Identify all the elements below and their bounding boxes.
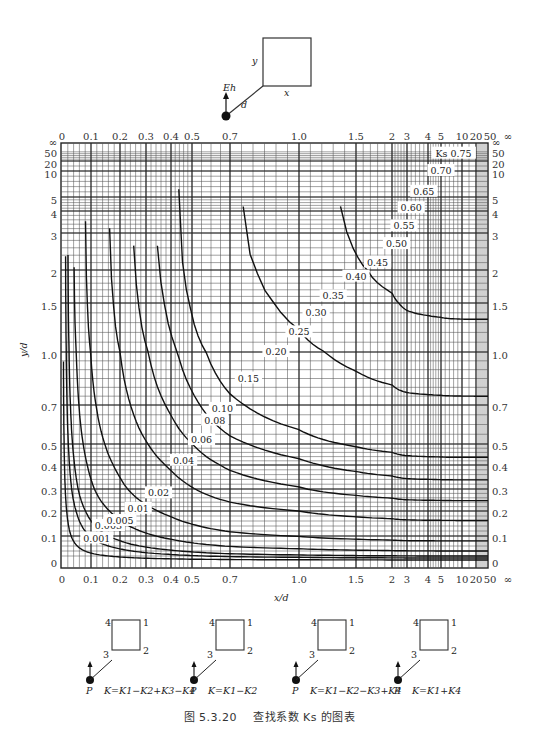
svg-text:K=K1−K2+K3−K4: K=K1−K2+K3−K4 [103,685,196,696]
svg-text:P: P [291,685,299,696]
contour-label: 0.04 [173,455,194,466]
x-tick-bottom: 0.5 [184,574,200,585]
y-tick-right: ∞ [492,137,500,148]
x-tick-bottom: 1.0 [291,574,307,585]
x-tick-bottom: 0 [59,574,65,585]
contour-label: 0.20 [265,346,286,357]
y-tick-right: 0.3 [492,486,508,497]
y-tick-left: 3 [51,231,57,242]
x-tick-bottom: 1.5 [348,574,364,585]
x-tick-top: 0.3 [138,131,154,142]
figure-number: 图 5.3.20 [184,711,237,724]
svg-text:4: 4 [209,617,215,628]
contour-label: 0.35 [323,290,344,301]
x-tick-bottom: 0.4 [163,574,179,585]
x-tick-top: 0.5 [184,131,200,142]
y-tick-right: 1.0 [492,350,508,361]
svg-text:1: 1 [451,617,457,628]
y-tick-right: 5 [492,195,498,206]
svg-text:2: 2 [143,645,149,656]
contour-label: 0.10 [212,403,233,414]
contour-label: 0.25 [288,326,309,337]
x-tick-top: 4 [425,131,431,142]
y-tick-right: 10 [492,169,505,180]
y-tick-left: 2 [51,268,57,279]
svg-text:P: P [85,685,93,696]
x-tick-top: 20 [470,131,483,142]
x-tick-top: 1.0 [291,131,307,142]
y-tick-right: 4 [492,209,498,220]
x-tick-top: 0.2 [112,131,128,142]
contour-label: 0.30 [306,307,327,318]
y-tick-left: 0.3 [41,486,57,497]
x-tick-top: 2 [389,131,395,142]
svg-text:4: 4 [105,617,111,628]
x-tick-bottom: 5 [438,574,444,585]
y-tick-left: 0.1 [41,533,57,544]
x-tick-bottom: 50 [484,574,497,585]
x-tick-top: 0.1 [83,131,99,142]
y-tick-left: 0.2 [41,508,57,519]
svg-text:1: 1 [349,617,355,628]
svg-text:3: 3 [103,649,109,660]
x-tick-bottom: 0.1 [83,574,99,585]
contour-label: 0.08 [204,415,225,426]
y-axis-label: y/d [18,342,29,358]
contour-label: 0.55 [393,220,414,231]
svg-text:K=K1−K2−K3+K4: K=K1−K2−K3+K4 [309,685,402,696]
legend-case: 4123PK=K1+K4 [393,617,461,696]
x-tick-top: 5 [438,131,444,142]
x-tick-top: 0 [59,131,65,142]
x-tick-bottom: 10 [456,574,469,585]
x-tick-bottom: 0.3 [138,574,154,585]
svg-text:P: P [189,685,197,696]
contour-label: 0.65 [413,186,434,197]
y-tick-right: 50 [492,148,505,159]
svg-text:2: 2 [451,645,457,656]
svg-text:P: P [393,685,401,696]
y-tick-right: 0.7 [492,402,508,413]
svg-text:K=K1−K2: K=K1−K2 [207,685,257,696]
y-tick-left: 0.7 [41,402,57,413]
svg-text:1: 1 [143,617,149,628]
contour-label: 0.40 [345,271,366,282]
width-label: x [284,87,290,98]
svg-text:4: 4 [311,617,317,628]
x-tick-top: 1.5 [348,131,364,142]
y-tick-left: 4 [51,209,57,220]
x-tick-bottom: 20 [470,574,483,585]
y-tick-right: 0.2 [492,508,508,519]
contour-label: 0.70 [430,165,451,176]
y-tick-right: 3 [492,231,498,242]
y-tick-right: 2 [492,268,498,279]
contour-label: 0.001 [83,533,110,544]
svg-text:4: 4 [413,617,419,628]
svg-text:K=K1+K4: K=K1+K4 [411,685,461,696]
x-tick-bottom: 0.7 [222,574,238,585]
contour-label: 0.005 [106,515,133,526]
x-tick-bottom: 3 [404,574,410,585]
contour-label: 0.02 [148,487,169,498]
y-tick-right: 0.1 [492,533,508,544]
source-label: Eh [222,82,236,93]
y-tick-right: 20 [492,159,505,170]
contour-label: 0.15 [238,373,259,384]
x-tick-top: 0.7 [222,131,238,142]
y-tick-right: 0.4 [492,462,508,473]
y-tick-left: 0.5 [41,441,57,452]
legend-case: 4123PK=K1−K2+K3−K4 [85,617,196,696]
x-tick-bottom: 2 [389,574,395,585]
y-tick-right: 0 [492,558,498,569]
legend-cases: 4123PK=K1−K2+K3−K44123PK=K1−K24123PK=K1−… [85,617,461,696]
contour-label: Ks 0.75 [436,148,472,159]
x-tick-bottom: ∞ [504,574,512,585]
contour-label: 0.45 [367,257,388,268]
y-tick-left: 1.5 [41,301,57,312]
height-label: y [251,55,258,66]
y-tick-right: 0.5 [492,441,508,452]
top-geometry-diagram: Eh d x y [222,38,312,121]
distance-label: d [241,99,247,110]
y-tick-left: 5 [51,195,57,206]
y-tick-left: 0 [51,558,57,569]
svg-text:2: 2 [247,645,253,656]
